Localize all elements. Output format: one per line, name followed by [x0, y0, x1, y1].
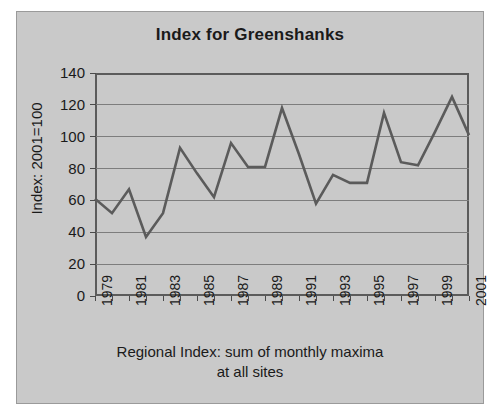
y-tick-label: 40	[25, 224, 85, 239]
x-tick-mark	[469, 296, 470, 301]
y-tick-label: 100	[25, 129, 85, 144]
x-tick-mark	[384, 296, 385, 301]
chart-title: Index for Greenshanks	[17, 25, 483, 45]
x-tick-mark	[452, 296, 453, 301]
chart-figure: Index for Greenshanks Index: 2001=100 02…	[16, 11, 484, 404]
x-tick-mark	[180, 296, 181, 301]
x-axis-title: Regional Index: sum of monthly maxima at…	[17, 342, 483, 383]
x-tick-mark	[401, 296, 402, 301]
x-tick-mark	[197, 296, 198, 301]
x-tick-mark	[435, 296, 436, 301]
x-tick-mark	[248, 296, 249, 301]
y-tick-label: 0	[25, 288, 85, 303]
x-axis-title-line2: at all sites	[17, 362, 483, 382]
x-tick-mark	[367, 296, 368, 301]
series-line	[95, 73, 469, 296]
x-tick-label: 2001	[474, 275, 488, 306]
y-tick-label: 60	[25, 192, 85, 207]
x-tick-mark	[231, 296, 232, 301]
x-tick-mark	[418, 296, 419, 301]
x-tick-mark	[333, 296, 334, 301]
x-axis-title-line1: Regional Index: sum of monthly maxima	[17, 342, 483, 362]
x-tick-mark	[316, 296, 317, 301]
x-tick-mark	[146, 296, 147, 301]
x-tick-mark	[112, 296, 113, 301]
x-tick-mark	[129, 296, 130, 301]
x-tick-mark	[163, 296, 164, 301]
x-tick-mark	[265, 296, 266, 301]
x-tick-mark	[95, 296, 96, 301]
x-tick-mark	[282, 296, 283, 301]
y-tick-label: 120	[25, 97, 85, 112]
y-tick-label: 140	[25, 65, 85, 80]
x-tick-mark	[299, 296, 300, 301]
x-tick-mark	[214, 296, 215, 301]
y-tick-label: 20	[25, 256, 85, 271]
plot-area: 020406080100120140 197919811983198519871…	[95, 73, 469, 296]
y-tick-label: 80	[25, 161, 85, 176]
x-tick-mark	[350, 296, 351, 301]
